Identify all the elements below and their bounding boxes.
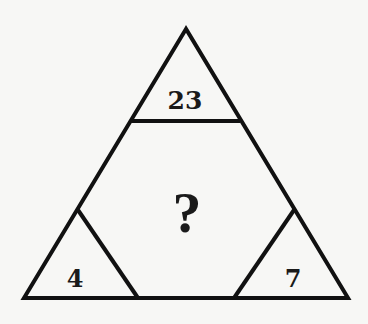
- top-cell-value: 23: [168, 88, 203, 113]
- triangle-puzzle: 23 ? 4 7: [0, 0, 368, 324]
- left-divider-line: [78, 210, 138, 298]
- triangle-diagram: [0, 0, 368, 324]
- bottom-left-cell-value: 4: [67, 267, 84, 291]
- bottom-right-cell-value: 7: [285, 267, 302, 291]
- outer-triangle: [24, 29, 348, 298]
- center-cell-unknown: ?: [173, 184, 202, 242]
